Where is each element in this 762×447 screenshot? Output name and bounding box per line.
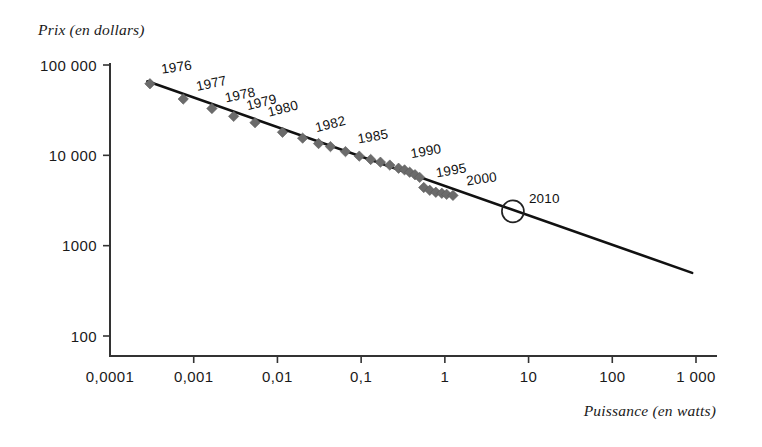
x-tick-label: 1 000 (676, 368, 716, 385)
x-tick-label: 10 (520, 368, 538, 385)
year-label-1985: 1985 (356, 126, 389, 146)
y-axis-title: Prix (en dollars) (37, 21, 145, 39)
x-axis-ticks: 0,00010,0010,010,11101001 000 (86, 356, 716, 385)
y-tick-label: 10 000 (49, 147, 97, 164)
y-tick-label: 1000 (62, 237, 97, 254)
year-label-2010: 2010 (529, 191, 560, 206)
chart-axes-lines (110, 63, 717, 356)
x-tick-label: 0,1 (350, 368, 372, 385)
year-label-2000: 2000 (465, 169, 498, 188)
data-point-marker (145, 79, 155, 89)
x-tick-label: 1 (440, 368, 449, 385)
log-log-scatter-chart: Prix (en dollars) Puissance (en watts) 1… (0, 0, 762, 447)
x-axis-title: Puissance (en watts) (583, 402, 716, 420)
year-label-1990: 1990 (409, 141, 442, 161)
y-tick-label: 100 (71, 328, 97, 345)
data-point-marker (340, 146, 350, 156)
x-tick-label: 0,001 (174, 368, 214, 385)
data-point-marker (354, 151, 364, 161)
year-label-1976: 1976 (160, 58, 193, 77)
year-annotations-group: 1976197719781979198019821985199019952000… (160, 58, 559, 207)
year-label-1995: 1995 (435, 160, 468, 180)
year-label-1982: 1982 (314, 113, 348, 135)
x-tick-label: 100 (599, 368, 625, 385)
x-tick-label: 0,01 (262, 368, 293, 385)
data-point-marker (325, 141, 335, 151)
x-tick-label: 0,0001 (86, 368, 134, 385)
data-point-marker (365, 154, 375, 164)
y-tick-label: 100 000 (40, 57, 97, 74)
chart-container: Prix (en dollars) Puissance (en watts) 1… (0, 0, 762, 447)
y-axis-ticks: 100 00010 0001000100 (40, 57, 110, 345)
